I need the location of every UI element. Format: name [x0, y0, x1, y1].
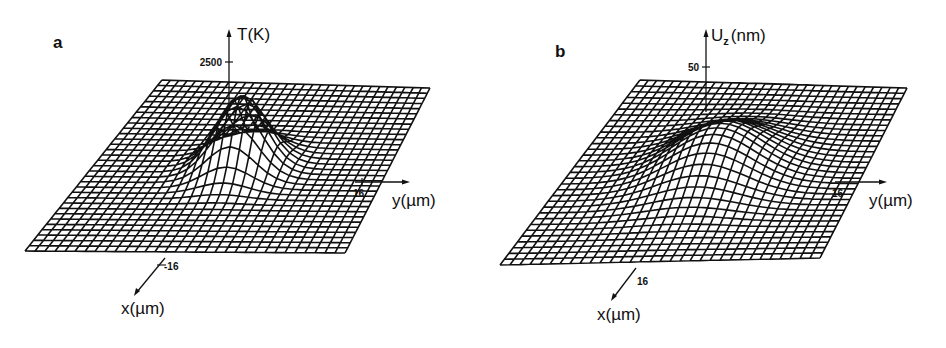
z-tick-label-a: 2500	[200, 57, 223, 68]
y-tick-label-a: 16	[353, 188, 365, 199]
x-tick-label-a: -16	[164, 261, 179, 272]
z-axis-arrow-icon	[227, 29, 232, 37]
panel-letter-b: b	[555, 42, 565, 61]
surface-mesh-a	[25, 80, 430, 253]
y-axis-arrow-icon	[402, 180, 410, 185]
z-axis-title-sub-b: z	[723, 35, 729, 47]
panel-a: 2500 T(K) a 16 y(µm) -16 x(µm)	[25, 25, 436, 318]
z-axis-title-a: T(K)	[237, 25, 270, 44]
figure-canvas: 2500 T(K) a 16 y(µm) -16 x(µm) 50 Uz(nm)…	[0, 0, 946, 348]
y-axis-title-a: y(µm)	[392, 191, 436, 210]
x-tick-label-b: 16	[637, 276, 649, 287]
z-axis-title-main-b: U	[711, 26, 723, 45]
z-axis-arrow-icon	[704, 29, 709, 37]
x-axis-a	[137, 258, 165, 292]
z-axis-title-unit-b: (nm)	[731, 26, 766, 45]
x-axis-b	[614, 268, 636, 297]
z-tick-label-b: 50	[688, 62, 700, 73]
z-axis-title-b: Uz(nm)	[711, 26, 766, 47]
x-axis-title-a: x(µm)	[121, 299, 165, 318]
panel-b: 50 Uz(nm) b 16 y(µm) 16 x(µm)	[500, 26, 913, 324]
y-tick-label-b: 16	[832, 188, 844, 199]
y-axis-title-b: y(µm)	[869, 191, 913, 210]
y-axis-arrow-icon	[879, 180, 887, 185]
surface-mesh-b	[500, 80, 907, 265]
panel-letter-a: a	[53, 33, 63, 52]
x-axis-title-b: x(µm)	[597, 305, 641, 324]
